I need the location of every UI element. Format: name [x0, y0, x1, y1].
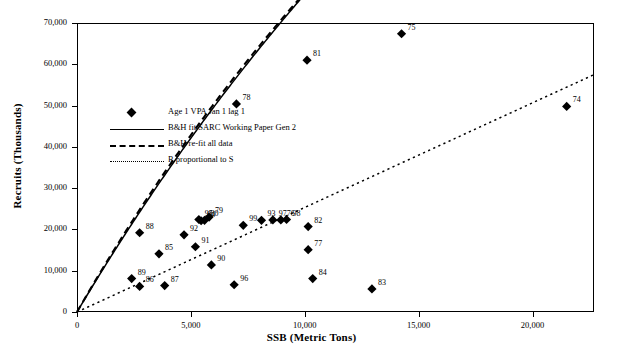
legend-label: B&H fit SARC Working Paper Gen 2	[168, 122, 296, 132]
x-tick-label: 20,000	[503, 320, 563, 330]
chart-figure: 010,00020,00030,00040,00050,00060,00070,…	[0, 0, 623, 359]
data-point-label: 93	[267, 209, 275, 218]
x-tick-mark	[191, 312, 192, 317]
chart-legend: Age 1 VPA Jan 1 lag 1 B&H fit SARC Worki…	[110, 105, 325, 169]
data-point-label: 74	[573, 95, 581, 104]
data-point-label: 89	[138, 268, 146, 277]
x-tick-mark	[77, 312, 78, 317]
legend-item-scatter: Age 1 VPA Jan 1 lag 1	[110, 105, 325, 121]
y-tick-mark	[72, 229, 77, 230]
data-point-label: 99	[249, 214, 257, 223]
solid-line-icon	[110, 121, 164, 137]
y-axis-title: Recruits (Thousands)	[11, 76, 23, 236]
dotted-line-icon	[110, 153, 164, 169]
y-tick-label: 60,000	[19, 58, 67, 68]
y-tick-mark	[72, 64, 77, 65]
y-tick-label: 70,000	[19, 17, 67, 27]
legend-label: Age 1 VPA Jan 1 lag 1	[168, 106, 245, 116]
y-tick-mark	[72, 147, 77, 148]
y-tick-label: 0	[19, 306, 67, 316]
data-point-label: 78	[242, 93, 250, 102]
y-tick-mark	[72, 271, 77, 272]
legend-label: B&H re-fit all data	[168, 138, 232, 148]
data-point-label: 96	[240, 274, 248, 283]
x-tick-label: 10,000	[275, 320, 335, 330]
data-point-label: 92	[190, 224, 198, 233]
legend-item-dashed-fit: B&H re-fit all data	[110, 137, 325, 153]
data-point-label: 77	[314, 239, 322, 248]
y-tick-label: 10,000	[19, 265, 67, 275]
data-point-label: 83	[378, 278, 386, 287]
legend-item-solid-fit: B&H fit SARC Working Paper Gen 2	[110, 121, 325, 137]
y-tick-mark	[72, 23, 77, 24]
y-tick-label: 30,000	[19, 182, 67, 192]
data-point-label: 97	[279, 209, 287, 218]
x-axis-title: SSB (Metric Tons)	[0, 331, 623, 343]
legend-item-proportional: R proportional to S	[110, 153, 325, 169]
x-tick-label: 15,000	[389, 320, 449, 330]
y-tick-label: 40,000	[19, 141, 67, 151]
y-tick-label: 50,000	[19, 100, 67, 110]
data-point-label: 88	[146, 222, 154, 231]
data-point-label: 95	[205, 209, 213, 218]
x-tick-label: 5,000	[161, 320, 221, 330]
data-point-label: 81	[313, 49, 321, 58]
dashed-line-icon	[110, 137, 164, 153]
data-point-label: 90	[217, 254, 225, 263]
data-point-label: 85	[165, 243, 173, 252]
data-point-label: 86	[146, 275, 154, 284]
y-tick-label: 20,000	[19, 223, 67, 233]
data-point-label: 91	[201, 236, 209, 245]
y-tick-mark	[72, 106, 77, 107]
y-tick-mark	[72, 188, 77, 189]
data-point-label: 75	[408, 23, 416, 32]
data-point-label: 87	[171, 275, 179, 284]
x-tick-mark	[305, 312, 306, 317]
data-point-label: 84	[319, 268, 327, 277]
diamond-marker-icon	[110, 105, 164, 121]
x-tick-mark	[419, 312, 420, 317]
data-point-label: 82	[314, 216, 322, 225]
legend-label: R proportional to S	[168, 154, 233, 164]
data-point-label: 98	[293, 209, 301, 218]
x-tick-label: 0	[47, 320, 107, 330]
x-tick-mark	[533, 312, 534, 317]
